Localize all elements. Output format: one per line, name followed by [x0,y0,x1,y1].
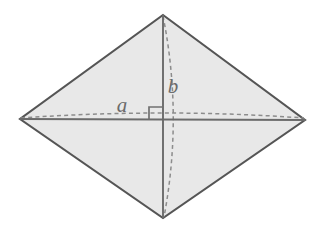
label-b: b [168,74,179,98]
label-a: a [117,93,128,117]
figure-container: a b [0,0,325,235]
rhombus-diagram-svg: a b [0,0,325,235]
